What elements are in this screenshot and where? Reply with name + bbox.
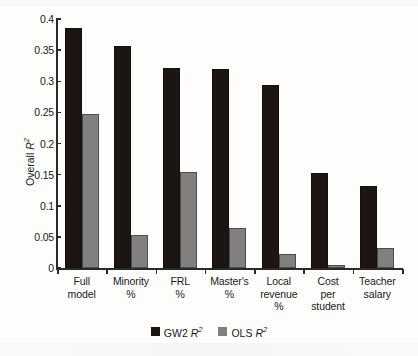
bar-group — [106, 19, 155, 268]
legend-swatch-ols-icon — [218, 327, 227, 336]
x-axis-category-label: Teacher salary — [353, 275, 402, 313]
bar-ols[interactable] — [377, 248, 394, 268]
y-axis-tick-label: 0.35 — [34, 44, 57, 56]
x-axis-category-label: Full model — [57, 275, 106, 313]
x-axis-labels: Full modelMinority %FRL %Master's %Local… — [57, 275, 402, 313]
bar-ols[interactable] — [82, 114, 99, 268]
x-axis-category-label: Minority % — [106, 275, 155, 313]
bar-ols[interactable] — [180, 172, 197, 268]
scan-artifact-top — [0, 0, 418, 6]
x-axis-category-label: Local revenue % — [254, 275, 303, 313]
bar-gw2[interactable] — [262, 85, 279, 268]
y-axis-tick: 0.25 — [34, 106, 57, 118]
bar-group — [205, 19, 254, 268]
bar-ols[interactable] — [131, 235, 148, 268]
chart-figure: Overall R2 0.40.350.30.250.20.150.10.050… — [0, 0, 418, 356]
y-axis-tick: 0.4 — [40, 13, 57, 25]
legend-item-gw2: GW2 R2 — [151, 325, 203, 339]
legend-label-ols-symbol: R — [255, 327, 263, 339]
y-axis-tick: 0.3 — [40, 75, 57, 87]
x-axis-tick-mark — [254, 269, 256, 274]
y-axis-tick-label: 0.1 — [40, 200, 57, 212]
y-axis-tick-label: 0.2 — [40, 138, 57, 150]
bar-gw2[interactable] — [311, 173, 328, 268]
y-axis-tick-label: 0 — [48, 262, 57, 274]
chart-legend: GW2 R2 OLS R2 — [0, 325, 418, 339]
legend-label-gw2-main: GW2 — [164, 327, 191, 339]
y-axis-title-exponent: 2 — [22, 138, 31, 142]
bar-ols[interactable] — [279, 254, 296, 268]
y-axis-tick: 0.35 — [34, 44, 57, 56]
x-axis-tick-mark — [303, 269, 305, 274]
y-axis-tick: 0.15 — [34, 169, 57, 181]
y-axis-tick-label: 0.4 — [40, 13, 57, 25]
y-axis-tick: 0.05 — [34, 231, 57, 243]
bar-gw2[interactable] — [114, 46, 131, 268]
legend-label-ols-main: OLS — [231, 327, 255, 339]
y-axis-tick-label: 0.25 — [34, 106, 57, 118]
bar-group — [254, 19, 303, 268]
x-axis-tick-mark — [402, 269, 404, 274]
x-axis-tick-mark — [106, 269, 108, 274]
x-axis-tick-mark — [205, 269, 207, 274]
y-axis-tick: 0.2 — [40, 138, 57, 150]
y-axis-tick: 0 — [48, 262, 57, 274]
legend-swatch-gw2-icon — [151, 327, 160, 336]
bar-ols[interactable] — [229, 228, 246, 268]
x-axis-tick-mark — [353, 269, 355, 274]
bar-gw2[interactable] — [212, 69, 229, 268]
legend-item-ols: OLS R2 — [218, 325, 267, 339]
x-axis-tick-mark — [156, 269, 158, 274]
x-axis-category-label: FRL % — [156, 275, 205, 313]
y-axis-tick-label: 0.05 — [34, 231, 57, 243]
legend-label-ols: OLS R2 — [231, 325, 267, 339]
bar-group — [156, 19, 205, 268]
bar-groups — [57, 19, 402, 268]
legend-label-gw2: GW2 R2 — [164, 325, 203, 339]
y-axis-tick-label: 0.15 — [34, 169, 57, 181]
bar-group — [303, 19, 352, 268]
x-axis-category-label: Cost per student — [303, 275, 352, 313]
y-axis-tick: 0.1 — [40, 200, 57, 212]
bar-group — [57, 19, 106, 268]
x-axis-ticks — [57, 269, 402, 274]
bar-ols[interactable] — [328, 265, 345, 268]
x-axis-category-label: Master's % — [205, 275, 254, 313]
bar-gw2[interactable] — [360, 186, 377, 268]
y-axis-title-symbol: R — [24, 142, 36, 150]
x-axis-tick-mark — [57, 269, 59, 274]
legend-label-gw2-exponent: 2 — [198, 325, 202, 334]
scan-artifact-bottom — [0, 343, 418, 356]
bar-gw2[interactable] — [65, 28, 82, 268]
y-axis-tick-label: 0.3 — [40, 75, 57, 87]
bar-group — [353, 19, 402, 268]
legend-label-ols-exponent: 2 — [263, 325, 267, 334]
bar-gw2[interactable] — [163, 68, 180, 268]
